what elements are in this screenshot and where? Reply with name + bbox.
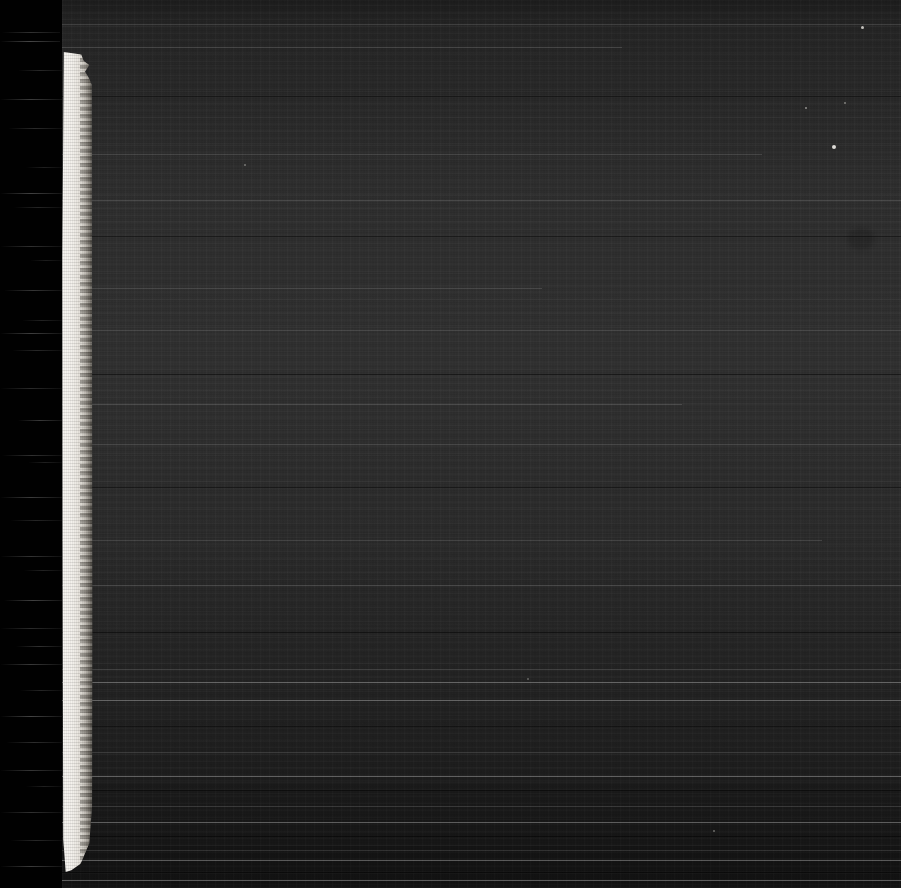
horizontal-scan-line [62, 632, 901, 633]
horizontal-scan-line [62, 96, 901, 97]
dust-speck-mid [844, 102, 846, 104]
scratch-streak [0, 812, 62, 813]
scratch-streak [26, 167, 62, 168]
dust-speck-upper [805, 107, 807, 109]
dust-speck-right [832, 145, 836, 149]
scratch-streak [30, 260, 62, 261]
scratch-streak [26, 786, 62, 787]
scratch-streak [0, 664, 62, 665]
scratch-streak [2, 32, 60, 33]
dust-speck-left [244, 164, 246, 166]
horizontal-scan-line [62, 776, 901, 777]
horizontal-scan-line [62, 872, 901, 873]
scratch-streak [6, 742, 62, 743]
horizontal-scan-line [62, 487, 901, 488]
scratch-streak [4, 290, 62, 291]
horizontal-scan-line [62, 700, 901, 701]
scratch-streak [0, 99, 62, 100]
dust-speck-bottom [713, 830, 715, 832]
scratch-streak [2, 455, 62, 456]
scratch-streak [4, 600, 62, 601]
scratch-streak [14, 207, 62, 208]
horizontal-scan-line [62, 47, 622, 48]
horizontal-scan-line [62, 790, 901, 791]
scratch-streak [0, 41, 60, 42]
horizontal-scan-line [62, 444, 901, 445]
horizontal-scan-line [62, 726, 901, 727]
scratch-streak [28, 462, 62, 463]
horizontal-scan-line [62, 850, 901, 851]
scratch-streak [12, 350, 62, 351]
horizontal-scan-line [62, 236, 901, 237]
scratch-streak [0, 497, 62, 498]
horizontal-scan-line [62, 288, 542, 289]
horizontal-scan-line [62, 404, 682, 405]
scratch-streak [10, 520, 62, 521]
scratch-streak [0, 716, 62, 717]
horizontal-scan-line [62, 374, 901, 375]
horizontal-scan-line [62, 752, 901, 753]
scratch-streak [0, 246, 62, 247]
scratch-streak [0, 388, 62, 389]
scratch-streak [8, 128, 62, 129]
scratch-streak [10, 840, 62, 841]
horizontal-scan-line [62, 200, 901, 201]
scratch-streak [0, 333, 62, 334]
black-margin-band [0, 0, 62, 888]
scratch-streak [18, 420, 62, 421]
scratch-streak [0, 770, 62, 771]
scratch-streak [24, 570, 62, 571]
scratch-streak [20, 690, 62, 691]
dust-speck-lower [527, 678, 529, 680]
scratch-streak [16, 646, 62, 647]
scratch-streak [22, 320, 62, 321]
horizontal-scan-line [62, 822, 901, 823]
horizontal-scan-line [62, 585, 901, 586]
horizontal-scan-line [62, 880, 901, 881]
scratch-streak [0, 556, 62, 557]
horizontal-scan-line [62, 540, 822, 541]
lower-dark-band [62, 846, 901, 888]
horizontal-scan-line [62, 669, 901, 670]
scratch-streak [0, 866, 62, 867]
horizontal-scan-line [62, 682, 901, 683]
scanned-microfilm-frame [0, 0, 901, 888]
horizontal-scan-line [62, 860, 901, 861]
scratch-streak [0, 193, 62, 194]
horizontal-scan-line [62, 154, 762, 155]
film-strip-edge-grit [80, 52, 93, 872]
emulsion-smudge-right [848, 228, 874, 250]
scratch-streak [0, 628, 62, 629]
horizontal-scan-line [62, 806, 901, 807]
horizontal-scan-line [62, 330, 901, 331]
dust-speck-top-right [861, 26, 864, 29]
horizontal-scan-line [62, 24, 901, 25]
film-edge-strip [62, 52, 93, 872]
scratch-streak [18, 70, 62, 71]
horizontal-scan-line [62, 836, 901, 837]
